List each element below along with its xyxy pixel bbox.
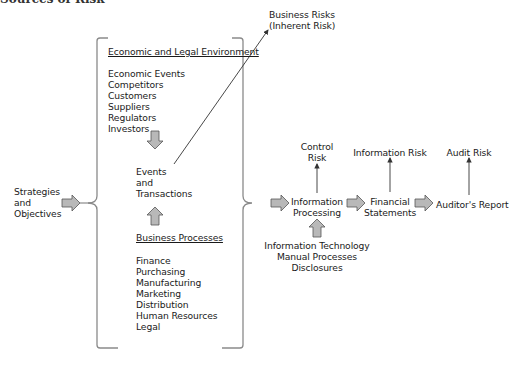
- label-line: (Inherent Risk): [269, 20, 335, 31]
- label-line: Statements: [364, 207, 416, 218]
- label-line: and: [14, 197, 61, 208]
- label-line: Control: [297, 141, 337, 152]
- arrow-bp-up: [147, 207, 163, 225]
- business-processes-list: Finance Purchasing Manufacturing Marketi…: [136, 255, 217, 332]
- label-line: Transactions: [136, 188, 192, 199]
- events-transactions-label: Events and Transactions: [136, 166, 192, 199]
- list-item: Marketing: [136, 288, 217, 299]
- label-line: Risk: [297, 152, 337, 163]
- label-line: Strategies: [14, 186, 61, 197]
- label-line: and: [136, 177, 192, 188]
- business-processes-heading: Business Processes: [136, 232, 223, 243]
- label-line: Financial: [364, 196, 416, 207]
- auditors-report-label: Auditor's Report: [436, 199, 509, 210]
- environment-list: Economic Events Competitors Customers Su…: [108, 68, 185, 134]
- processing-inputs-label: Information Technology Manual Processes …: [262, 240, 372, 273]
- control-risk-label: Control Risk: [297, 141, 337, 163]
- label-line: Information Technology: [262, 240, 372, 251]
- label-line: Objectives: [14, 208, 61, 219]
- list-item: Finance: [136, 255, 217, 266]
- label-line: Information: [287, 196, 347, 207]
- list-item: Human Resources: [136, 310, 217, 321]
- financial-statements-label: Financial Statements: [364, 196, 416, 218]
- list-item: Purchasing: [136, 266, 217, 277]
- list-item: Competitors: [108, 79, 185, 90]
- list-item: Distribution: [136, 299, 217, 310]
- label-line: Events: [136, 166, 192, 177]
- list-item: Customers: [108, 90, 185, 101]
- audit-risk-label: Audit Risk: [444, 147, 494, 158]
- list-item: Legal: [136, 321, 217, 332]
- label-line: Processing: [287, 207, 347, 218]
- arrow-to-statements: [347, 195, 365, 211]
- business-risks-label: Business Risks (Inherent Risk): [269, 9, 335, 31]
- information-processing-label: Information Processing: [287, 196, 347, 218]
- arrow-strategies: [62, 195, 80, 211]
- label-line: Manual Processes: [262, 251, 372, 262]
- arrow-inputs-up: [309, 219, 325, 237]
- arrow-to-report: [415, 195, 433, 211]
- list-item: Investors: [108, 123, 185, 134]
- right-bracket: [222, 38, 252, 348]
- list-item: Economic Events: [108, 68, 185, 79]
- list-item: Manufacturing: [136, 277, 217, 288]
- environment-heading: Economic and Legal Environment: [108, 46, 259, 57]
- list-item: Suppliers: [108, 101, 185, 112]
- list-item: Regulators: [108, 112, 185, 123]
- label-line: Business Risks: [269, 9, 335, 20]
- information-risk-label: Information Risk: [350, 147, 430, 158]
- strategies-objectives-label: Strategies and Objectives: [14, 186, 61, 219]
- label-line: Disclosures: [262, 262, 372, 273]
